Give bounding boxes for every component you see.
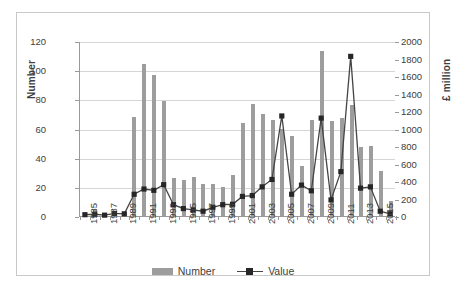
value-marker [368, 184, 373, 189]
chart-legend: NumberValue [17, 265, 429, 277]
value-marker [269, 177, 274, 182]
x-axis-label: 2009 [325, 203, 336, 224]
x-tick-mark [120, 216, 121, 220]
x-axis-label: 2003 [266, 203, 277, 224]
value-polyline [85, 56, 390, 215]
right-tick-label: 200 [401, 195, 417, 205]
legend-item[interactable]: Number [152, 265, 215, 277]
legend-label: Value [268, 265, 294, 277]
x-axis-label: 1997 [206, 203, 217, 224]
right-tick-label: 0 [401, 212, 406, 222]
value-marker [338, 169, 343, 174]
value-marker [289, 192, 294, 197]
left-tick-mark [75, 217, 79, 218]
line-series-value [80, 42, 395, 216]
right-tick-label: 1400 [401, 90, 422, 100]
value-marker [181, 206, 186, 211]
right-tick-label: 400 [401, 177, 417, 187]
chart-frame: Number £ million 020406080100120 0200400… [16, 12, 430, 276]
right-tick-label: 1600 [401, 72, 422, 82]
right-tick-mark [395, 165, 399, 166]
value-marker [319, 116, 324, 121]
value-marker [200, 209, 205, 214]
x-tick-mark [179, 216, 180, 220]
x-tick-mark [278, 216, 279, 220]
value-marker [161, 182, 166, 187]
x-tick-mark [139, 216, 140, 220]
x-tick-mark [337, 216, 338, 220]
x-tick-mark [317, 216, 318, 220]
value-marker [82, 212, 87, 217]
x-tick-mark [80, 216, 81, 220]
left-tick-label: 40 [35, 154, 46, 164]
left-tick-label: 120 [30, 37, 46, 47]
value-marker [102, 213, 107, 218]
value-marker [378, 209, 383, 214]
right-tick-mark [395, 42, 399, 43]
value-marker [279, 113, 284, 118]
right-tick-mark [395, 95, 399, 96]
right-tick-label: 600 [401, 160, 417, 170]
right-tick-mark [395, 130, 399, 131]
legend-bar-swatch [152, 268, 173, 275]
x-tick-mark [100, 216, 101, 220]
value-marker [309, 188, 314, 193]
right-tick-label: 1000 [401, 125, 422, 135]
left-tick-label: 20 [35, 183, 46, 193]
x-axis-label: 2001 [246, 203, 257, 224]
x-tick-mark [376, 216, 377, 220]
value-marker [348, 54, 353, 59]
value-marker [358, 186, 363, 191]
right-tick-label: 1800 [401, 55, 422, 65]
x-axis-label: 1989 [127, 203, 138, 224]
x-tick-mark [238, 216, 239, 220]
x-axis-label: 1987 [108, 203, 119, 224]
right-tick-mark [395, 147, 399, 148]
x-tick-mark [297, 216, 298, 220]
right-axis-title: £ million [441, 59, 452, 101]
left-tick-label: 0 [41, 212, 46, 222]
x-axis-label: 1993 [167, 203, 178, 224]
left-tick-label: 80 [35, 95, 46, 105]
x-tick-mark [258, 216, 259, 220]
x-axis-label: 1995 [187, 203, 198, 224]
x-tick-mark [199, 216, 200, 220]
x-tick-mark [357, 216, 358, 220]
right-tick-label: 2000 [401, 37, 422, 47]
right-tick-mark [395, 77, 399, 78]
right-tick-mark [395, 200, 399, 201]
right-tick-label: 800 [401, 142, 417, 152]
plot-area [79, 42, 395, 217]
value-marker [250, 193, 255, 198]
x-tick-mark [396, 216, 397, 220]
value-marker [328, 197, 333, 202]
legend-line-swatch [237, 267, 263, 276]
value-markers [82, 54, 392, 218]
left-tick-label: 100 [30, 66, 46, 76]
right-tick-mark [395, 182, 399, 183]
x-axis-label: 2015 [384, 203, 395, 224]
x-tick-mark [159, 216, 160, 220]
x-axis-label: 2007 [305, 203, 316, 224]
right-tick-label: 1200 [401, 107, 422, 117]
legend-item[interactable]: Value [237, 265, 294, 277]
value-marker [299, 183, 304, 188]
right-tick-mark [395, 112, 399, 113]
x-axis-label: 1991 [147, 203, 158, 224]
value-marker [132, 192, 137, 197]
x-axis-label: 1999 [226, 203, 237, 224]
value-marker [240, 194, 245, 199]
value-marker [151, 188, 156, 193]
x-axis-label: 2005 [285, 203, 296, 224]
x-axis-label: 2011 [345, 204, 356, 224]
x-axis-label: 2013 [364, 203, 375, 224]
left-tick-label: 60 [35, 125, 46, 135]
value-marker [220, 202, 225, 207]
value-marker [141, 186, 146, 191]
right-tick-mark [395, 60, 399, 61]
value-marker [260, 184, 265, 189]
legend-label: Number [178, 265, 215, 277]
x-axis-label: 1985 [88, 203, 99, 224]
x-tick-mark [218, 216, 219, 220]
